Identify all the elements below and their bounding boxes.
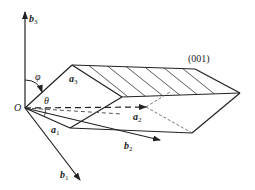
a3-label: a3 [69, 73, 78, 86]
origin-label: O [14, 102, 21, 113]
plane-label: (001) [188, 53, 210, 65]
a1-label: a1 [51, 124, 60, 137]
b1-label: b1 [60, 169, 69, 182]
unit-cell-edges [25, 65, 240, 133]
phi-label: φ [35, 71, 41, 82]
theta-label: θ [44, 95, 49, 106]
a2-vector [25, 107, 146, 108]
b2-label: b2 [124, 140, 133, 153]
b3-label: b3 [29, 13, 38, 26]
lattice-diagram: b3 φ a3 (001) O θ a1 a2 b2 b1 [0, 0, 255, 190]
a2-label: a2 [133, 111, 142, 124]
